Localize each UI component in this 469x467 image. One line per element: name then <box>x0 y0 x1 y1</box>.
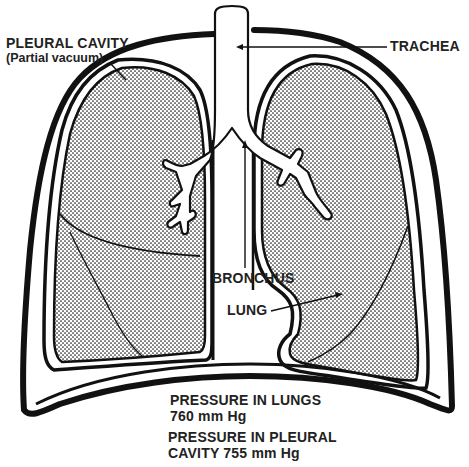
label-lung: LUNG <box>227 303 267 318</box>
label-pressure-lungs-value: 760 mm Hg <box>170 409 247 424</box>
label-pressure-pleural: PRESSURE IN PLEURAL <box>168 430 337 445</box>
label-trachea: TRACHEA <box>390 39 460 54</box>
mediastinum <box>214 140 252 362</box>
label-bronchus: BRONCHUS <box>212 271 295 286</box>
label-pressure-pleural-value: CAVITY 755 mm Hg <box>168 446 300 461</box>
label-pleural-cavity-note: (Partial vacuum) <box>6 52 103 65</box>
label-pleural-cavity: PLEURAL CAVITY <box>6 36 129 51</box>
label-pressure-lungs: PRESSURE IN LUNGS <box>170 393 321 408</box>
